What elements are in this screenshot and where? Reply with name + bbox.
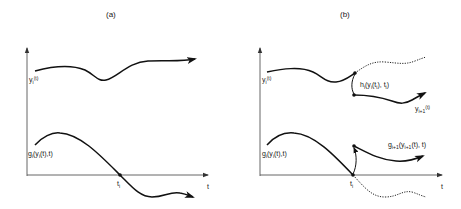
diagram-canvas — [0, 0, 461, 209]
panel-a-state-curve — [35, 59, 195, 80]
panel-b-x-axis-label: t — [441, 183, 443, 190]
panel-b-state-continuation-dotted — [355, 57, 426, 73]
panel-a-title: (a) — [106, 10, 116, 19]
panel-a-crossing-point — [118, 173, 122, 177]
panel-a-guard-label: gi(yi(t),t) — [28, 150, 53, 159]
panel-b-reset-label: hi(yi(ti), ti) — [360, 81, 389, 90]
panel-b-title: (b) — [340, 10, 350, 19]
panel-b-guard-reset-arc — [353, 148, 356, 174]
panel-a-crossing-label: ti — [117, 180, 120, 189]
panel-a-state-label: yi(t) — [29, 76, 38, 85]
panel-b-guard-label: gi(yi(t),t) — [262, 150, 287, 159]
panel-b-new-state-curve — [354, 93, 425, 103]
panel-b-new-state-label: yi+1(t) — [415, 105, 430, 114]
panel-b-state-label: yi(t) — [262, 76, 271, 85]
panel-b-guard-continuation-dotted — [353, 175, 426, 197]
panel-a-x-axis-label: t — [207, 183, 209, 190]
panel-b-crossing-label: ti — [350, 180, 353, 189]
panel-b-new-guard-label: gi+1(yi+1(t), t) — [388, 141, 426, 150]
panel-b-reset-arc — [352, 74, 355, 94]
panel-a-guard-curve — [35, 133, 193, 197]
panel-b-state-curve — [267, 69, 355, 83]
